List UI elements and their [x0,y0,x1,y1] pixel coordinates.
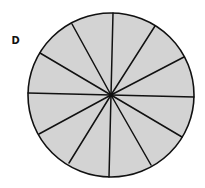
center-point [109,93,113,97]
divided-circle-diagram [0,0,205,188]
